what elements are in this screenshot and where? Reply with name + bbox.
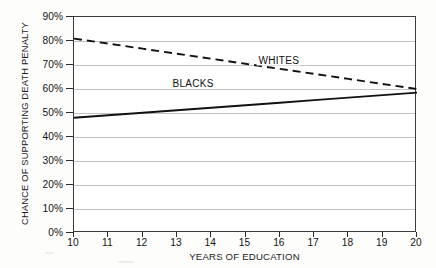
x-tick-mark [107, 232, 108, 237]
x-axis-ticks: 1011121314151617181920 [0, 0, 436, 268]
x-tick-label: 13 [170, 237, 181, 248]
x-tick-mark [176, 232, 177, 237]
x-tick-label: 16 [273, 237, 284, 248]
x-tick-mark [382, 232, 383, 237]
x-tick-mark [210, 232, 211, 237]
chart-figure: CHANCE OF SUPPORTING DEATH PENALTY 0%10%… [0, 0, 436, 268]
x-tick-label: 12 [136, 237, 147, 248]
x-tick-mark [313, 232, 314, 237]
x-tick-label: 20 [410, 237, 421, 248]
series-label-blacks: BLACKS [170, 78, 215, 89]
x-tick-mark [279, 232, 280, 237]
scan-speckle [118, 261, 134, 263]
x-tick-label: 17 [307, 237, 318, 248]
x-tick-label: 10 [67, 237, 78, 248]
x-tick-label: 15 [239, 237, 250, 248]
x-tick-mark [73, 232, 74, 237]
scan-speckle [45, 252, 54, 254]
x-tick-mark [245, 232, 246, 237]
x-tick-mark [416, 232, 417, 237]
x-tick-label: 11 [102, 237, 113, 248]
x-tick-label: 18 [342, 237, 353, 248]
x-tick-label: 14 [205, 237, 216, 248]
x-tick-mark [142, 232, 143, 237]
x-tick-mark [347, 232, 348, 237]
x-tick-label: 19 [376, 237, 387, 248]
series-label-whites: WHITES [256, 55, 301, 66]
